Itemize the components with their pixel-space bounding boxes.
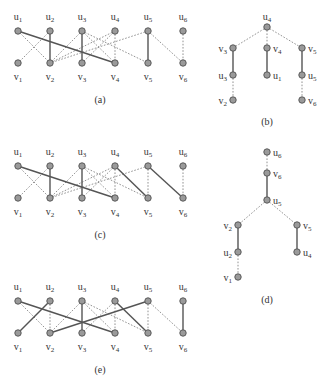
node-label-b-v2: v2: [219, 95, 228, 108]
node-e-v2: [47, 330, 53, 336]
node-label-c-v4: v4: [111, 206, 120, 219]
node-d-u6: [264, 149, 270, 155]
node-label-d-v5: v5: [303, 220, 312, 233]
node-c-u4: [112, 163, 118, 169]
node-label-a-v2: v2: [46, 71, 55, 84]
node-d-v6: [264, 170, 270, 176]
node-label-e-u2: u2: [46, 281, 55, 294]
node-label-c-v3: v3: [78, 206, 87, 219]
node-label-b-u3: u3: [219, 70, 228, 83]
node-a-u2: [47, 28, 53, 34]
node-label-e-u4: u4: [111, 281, 120, 294]
node-b-v4: [264, 45, 270, 51]
node-label-c-u2: u2: [46, 146, 55, 159]
node-label-d-u5: u5: [273, 195, 282, 208]
node-label-e-v1: v1: [14, 341, 23, 354]
edge-solid-c-u5-v6: [148, 166, 183, 198]
node-label-d-u2: u2: [224, 247, 233, 260]
node-e-u3: [79, 298, 85, 304]
node-label-d-v6: v6: [273, 168, 282, 181]
node-label-a-u3: u3: [78, 11, 87, 24]
caption-b: (b): [261, 116, 273, 128]
node-e-u2: [47, 298, 53, 304]
node-label-a-v5: v5: [144, 71, 153, 84]
node-b-u5: [299, 72, 305, 78]
node-b-v2: [230, 97, 236, 103]
edges-layer: [18, 27, 302, 333]
node-d-v5: [294, 222, 300, 228]
node-a-v5: [145, 60, 151, 66]
node-label-c-u4: u4: [111, 146, 120, 159]
node-label-a-v4: v4: [111, 71, 120, 84]
node-c-v6: [180, 195, 186, 201]
node-label-a-v3: v3: [78, 71, 87, 84]
node-label-b-v4: v4: [273, 43, 282, 56]
node-label-e-u5: u5: [144, 281, 153, 294]
node-b-v3: [230, 45, 236, 51]
node-b-u4: [264, 24, 270, 30]
node-label-a-u1: u1: [14, 11, 23, 24]
node-e-v3: [79, 330, 85, 336]
node-label-d-v1: v1: [224, 272, 233, 285]
node-a-v6: [180, 60, 186, 66]
node-label-b-u5: u5: [308, 70, 317, 83]
node-a-v3: [79, 60, 85, 66]
node-label-c-v1: v1: [14, 206, 23, 219]
edge-dotted-d-u5-v2: [238, 200, 267, 225]
node-d-u2: [235, 249, 241, 255]
edge-solid-c-u4-v5: [115, 166, 148, 198]
node-e-v6: [180, 330, 186, 336]
node-e-v4: [112, 330, 118, 336]
node-label-c-u6: u6: [179, 146, 188, 159]
node-label-e-v4: v4: [111, 341, 120, 354]
node-label-b-v5: v5: [308, 43, 317, 56]
node-c-v2: [47, 195, 53, 201]
node-label-c-u3: u3: [78, 146, 87, 159]
caption-e: (e): [94, 364, 105, 376]
node-label-b-v3: v3: [219, 43, 228, 56]
node-label-a-u5: u5: [144, 11, 153, 24]
node-label-e-u6: u6: [179, 281, 188, 294]
node-label-c-v2: v2: [46, 206, 55, 219]
node-label-d-v2: v2: [224, 220, 233, 233]
node-label-a-u4: u4: [111, 11, 120, 24]
node-e-u6: [180, 298, 186, 304]
node-c-u1: [15, 163, 21, 169]
node-c-u6: [180, 163, 186, 169]
node-c-u5: [145, 163, 151, 169]
node-c-u3: [79, 163, 85, 169]
node-b-v6: [299, 97, 305, 103]
node-a-u5: [145, 28, 151, 34]
node-d-u5: [264, 197, 270, 203]
node-label-e-u1: u1: [14, 281, 23, 294]
node-label-d-u6: u6: [273, 147, 282, 160]
node-c-v3: [79, 195, 85, 201]
node-d-u4: [294, 249, 300, 255]
node-label-d-u4: u4: [303, 247, 312, 260]
node-e-u4: [112, 298, 118, 304]
node-c-v4: [112, 195, 118, 201]
node-label-e-v2: v2: [46, 341, 55, 354]
node-c-v5: [145, 195, 151, 201]
node-label-e-v3: v3: [78, 341, 87, 354]
caption-c: (c): [94, 229, 105, 241]
node-c-u2: [47, 163, 53, 169]
node-label-c-v6: v6: [179, 206, 188, 219]
node-label-e-v5: v5: [144, 341, 153, 354]
node-label-b-u4: u4: [263, 11, 272, 24]
node-label-e-v6: v6: [179, 341, 188, 354]
node-b-v5: [299, 45, 305, 51]
node-a-u1: [15, 28, 21, 34]
node-label-c-u1: u1: [14, 146, 23, 159]
node-a-u4: [112, 28, 118, 34]
edge-dotted-a-u5-v6: [148, 31, 183, 63]
node-b-u1: [264, 72, 270, 78]
node-label-a-v1: v1: [14, 71, 23, 84]
node-label-b-v6: v6: [308, 95, 317, 108]
node-a-v2: [47, 60, 53, 66]
node-e-u5: [145, 298, 151, 304]
edge-dotted-e-u5-v6: [148, 301, 183, 333]
node-e-u1: [15, 298, 21, 304]
node-label-a-v6: v6: [179, 71, 188, 84]
node-b-u3: [230, 72, 236, 78]
